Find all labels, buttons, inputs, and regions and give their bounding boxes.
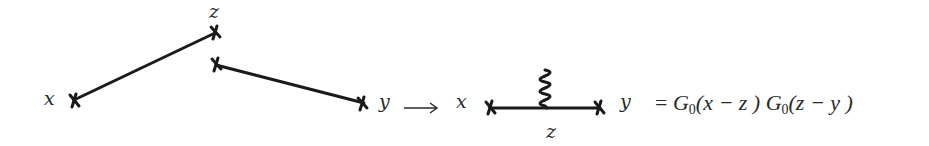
label-y-left: y: [379, 92, 390, 111]
wiggly-line-icon: [540, 70, 550, 108]
feynman-diagram-canvas: [0, 0, 929, 146]
g-symbol-1: G: [673, 90, 689, 115]
label-z-left: z: [209, 2, 219, 21]
label-x-right: x: [456, 92, 467, 111]
equals-sign: =: [655, 90, 667, 115]
cross-icon-y-left: [358, 97, 367, 110]
propagator-z-to-y: [216, 65, 364, 103]
cross-icon-z-upper: [211, 26, 220, 39]
g-argument-2: (z − y ): [789, 90, 853, 115]
label-y-right: y: [620, 92, 631, 111]
cross-icon-x-left: [70, 94, 79, 107]
g-argument-1: (x − z ): [696, 90, 760, 115]
g-subscript-2: 0: [782, 102, 789, 117]
vertex-markers: [70, 26, 604, 114]
maps-to-arrow-icon: [404, 103, 437, 113]
g-subscript-1: 0: [689, 102, 696, 117]
label-x-left: x: [44, 89, 55, 108]
label-z-right: z: [546, 122, 556, 141]
propagator-equation: = G0(x − z ) G0(z − y ): [655, 92, 853, 117]
propagator-x-to-z: [74, 33, 215, 100]
g-symbol-2: G: [766, 90, 782, 115]
